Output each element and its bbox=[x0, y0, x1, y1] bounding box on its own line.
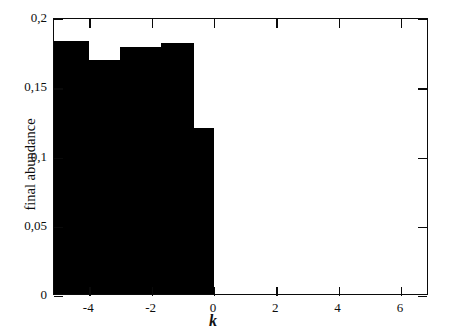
bar-segment bbox=[54, 41, 89, 294]
y-tick-left bbox=[54, 158, 63, 159]
x-tick-top bbox=[276, 19, 277, 28]
x-tick-bottom bbox=[214, 287, 215, 296]
x-tick-bottom bbox=[152, 287, 153, 296]
x-axis-title: k bbox=[209, 312, 217, 330]
y-tick-left bbox=[54, 296, 63, 297]
y-tick-right bbox=[418, 296, 427, 297]
x-tick-label: -4 bbox=[68, 300, 108, 316]
bar-segment bbox=[120, 47, 161, 294]
x-tick-label: 6 bbox=[380, 300, 420, 316]
y-axis-title: final abundance bbox=[22, 65, 39, 265]
y-tick-left bbox=[54, 88, 63, 89]
plot-frame bbox=[53, 18, 428, 295]
x-tick-top bbox=[401, 19, 402, 28]
x-tick-top bbox=[152, 19, 153, 28]
x-tick-top bbox=[339, 19, 340, 28]
x-tick-label: 4 bbox=[318, 300, 358, 316]
x-tick-label: -2 bbox=[131, 300, 171, 316]
x-tick-top bbox=[89, 19, 90, 28]
y-tick-right bbox=[418, 227, 427, 228]
bar-segment bbox=[194, 128, 214, 294]
y-tick-left bbox=[54, 19, 63, 20]
x-tick-bottom bbox=[401, 287, 402, 296]
bar-segment bbox=[89, 60, 120, 294]
y-tick-label: 0 bbox=[3, 287, 47, 303]
plot-area bbox=[54, 19, 427, 294]
y-tick-left bbox=[54, 227, 63, 228]
y-tick-right bbox=[418, 19, 427, 20]
x-tick-bottom bbox=[89, 287, 90, 296]
y-tick-label: 0,2 bbox=[3, 10, 47, 26]
y-tick-right bbox=[418, 158, 427, 159]
x-tick-label: 2 bbox=[255, 300, 295, 316]
y-tick-right bbox=[418, 88, 427, 89]
x-tick-bottom bbox=[339, 287, 340, 296]
chart-figure: -4-2024600,050,10,150,2 k final abundanc… bbox=[0, 0, 450, 336]
x-tick-top bbox=[214, 19, 215, 28]
x-tick-bottom bbox=[276, 287, 277, 296]
bar-segment bbox=[161, 43, 194, 294]
